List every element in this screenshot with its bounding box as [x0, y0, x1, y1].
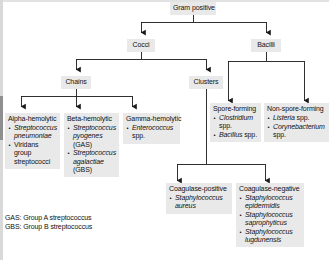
species-qualifier: spp. — [273, 131, 286, 138]
species-name: Listeria — [273, 114, 295, 121]
node-bacilli-label: Bacilli — [254, 41, 278, 49]
node-chains-label: Chains — [64, 78, 88, 86]
node-coagulase-positive-items: Staphylococcus aureus — [169, 194, 229, 210]
species-name: lugdunensis — [245, 236, 281, 243]
node-cocci-label: Cocci — [130, 41, 152, 49]
node-beta-hemolytic-label: Beta-hemolytic — [67, 115, 116, 123]
species-qualifier: spp. — [295, 114, 310, 121]
node-beta-hemolytic-items: Streptococcus pyogenes (GAS)Streptococcu… — [67, 124, 116, 174]
node-coagulase-negative[interactable]: Coagulase-negative Staphylococcus epider… — [236, 183, 304, 247]
node-coagulase-positive[interactable]: Coagulase-positive Staphylococcus aureus — [166, 183, 232, 214]
list-item: Listeria spp. — [267, 114, 326, 122]
node-beta-hemolytic[interactable]: Beta-hemolytic Streptococcus pyogenes (G… — [64, 113, 119, 177]
species-name: Streptococcus — [73, 124, 116, 131]
node-alpha-hemolytic-label: Alpha-hemolytic — [8, 115, 57, 123]
species-name: saprophyticus — [245, 219, 287, 226]
species-name: Clostridium — [219, 114, 253, 121]
node-cocci[interactable]: Cocci — [127, 39, 155, 52]
node-bacilli[interactable]: Bacilli — [251, 39, 281, 52]
node-gram-positive-label: Gram positive — [173, 4, 213, 12]
node-non-spore-forming-label: Non-spore-forming — [267, 105, 326, 113]
node-coagulase-negative-label: Coagulase-negative — [239, 185, 301, 193]
species-name: Bacillus — [219, 131, 242, 138]
node-gamma-hemolytic-items: Enterococcus spp. — [126, 124, 177, 140]
node-clusters-label: Clusters — [192, 78, 220, 86]
species-name: epidermidis — [245, 202, 280, 209]
legend-gas: GAS: Group A streptococcus — [5, 213, 92, 222]
node-spore-forming[interactable]: Spore-forming Clostridium spp.Bacillus s… — [210, 103, 261, 142]
species-name: agalactiae — [73, 158, 104, 165]
list-item: Clostridium spp. — [213, 114, 258, 130]
species-name: Enterococcus — [132, 124, 173, 131]
species-name: aureus — [175, 202, 196, 209]
species-qualifier: Viridans group streptococci — [14, 141, 50, 164]
node-coagulase-negative-items: Staphylococcus epidermidisStaphylococcus… — [239, 194, 301, 244]
node-clusters[interactable]: Clusters — [189, 76, 223, 89]
species-qualifier: (GAS) — [73, 141, 92, 148]
species-name: Staphylococcus — [245, 194, 293, 201]
species-name: Staphylococcus — [245, 228, 293, 235]
species-name: Streptococcus — [73, 149, 116, 156]
node-gram-positive[interactable]: Gram positive — [170, 2, 216, 15]
list-item: Viridans group streptococci — [8, 141, 57, 166]
node-spore-forming-items: Clostridium spp.Bacillus spp. — [213, 114, 258, 139]
list-item: Streptococcus pyogenes (GAS) — [67, 124, 116, 149]
species-qualifier: (GBS) — [73, 166, 92, 173]
list-item: Bacillus spp. — [213, 131, 258, 139]
list-item: Corynebacterium spp. — [267, 123, 326, 139]
list-item: Streptococcus agalactiae (GBS) — [67, 149, 116, 174]
species-name: Corynebacterium — [273, 123, 325, 130]
node-chains[interactable]: Chains — [61, 76, 91, 89]
legend-gbs: GBS: Group B streptococcus — [5, 222, 92, 231]
list-item: Staphylococcus lugdunensis — [239, 228, 301, 244]
list-item: Staphylococcus aureus — [169, 194, 229, 210]
list-item: Streptococcus pneumoniae — [8, 124, 57, 140]
list-item: Staphylococcus saprophyticus — [239, 211, 301, 227]
species-qualifier: spp. — [219, 122, 232, 129]
species-name: Streptococcus — [14, 124, 57, 131]
species-name: pyogenes — [73, 132, 103, 139]
node-non-spore-forming-items: Listeria spp.Corynebacterium spp. — [267, 114, 326, 139]
list-item: Staphylococcus epidermidis — [239, 194, 301, 210]
species-name: pneumoniae — [14, 132, 52, 139]
node-alpha-hemolytic-items: Streptococcus pneumoniaeViridans group s… — [8, 124, 57, 166]
node-coagulase-positive-label: Coagulase-positive — [169, 185, 229, 193]
node-alpha-hemolytic[interactable]: Alpha-hemolytic Streptococcus pneumoniae… — [5, 113, 60, 169]
species-name: Staphylococcus — [245, 211, 293, 218]
list-item: Enterococcus spp. — [126, 124, 177, 140]
node-gamma-hemolytic-label: Gamma-hemolytic — [126, 115, 177, 123]
species-qualifier: spp. — [242, 131, 257, 138]
species-name: Staphylococcus — [175, 194, 223, 201]
node-gamma-hemolytic[interactable]: Gamma-hemolytic Enterococcus spp. — [123, 113, 180, 144]
node-spore-forming-label: Spore-forming — [213, 105, 258, 113]
flowchart-canvas: Gram positive Cocci Bacilli Chains Clust… — [0, 0, 329, 260]
node-non-spore-forming[interactable]: Non-spore-forming Listeria spp.Corynebac… — [264, 103, 329, 142]
species-qualifier: spp. — [132, 132, 145, 139]
